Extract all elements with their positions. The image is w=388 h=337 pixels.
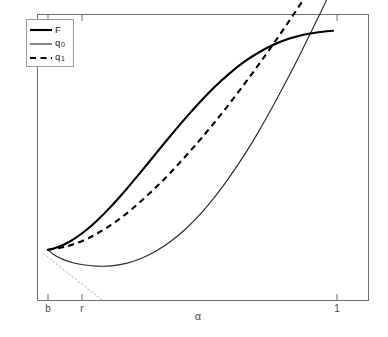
legend-label-q1-subscript: 1 [61,55,65,62]
chart-figure: b r 1 α F q 0 q 1 [0,0,388,337]
legend-label-q1: q [55,51,60,62]
legend-label-q0: q [55,37,60,48]
legend-label-q0-subscript: 0 [61,41,65,48]
plot-frame [38,15,369,301]
legend-frame [27,20,74,67]
x-tick-label-b: b [45,303,51,314]
tangent-guide-line [44,254,102,300]
legend-label-F: F [55,24,61,35]
x-axis-label: α [195,310,202,322]
x-tick-label-one: 1 [334,303,340,314]
line-chart-canvas: b r 1 α F q 0 q 1 [0,0,388,337]
legend: F q 0 q 1 [27,20,74,67]
series-line-F [48,31,333,250]
x-tick-label-r: r [80,303,84,314]
